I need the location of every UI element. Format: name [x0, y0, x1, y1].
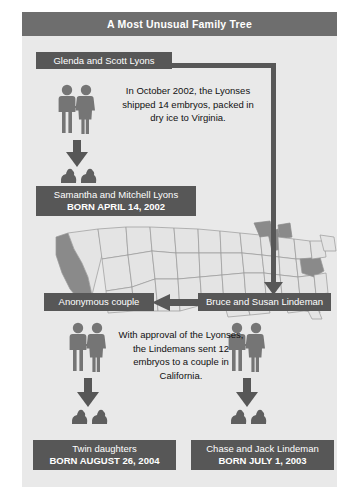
node-name: Bruce and Susan Lindeman: [206, 296, 323, 308]
couple-silhouette-anonymous-icon: [65, 322, 111, 372]
annotation-middle: With approval of the Lyonses, the Lindem…: [118, 328, 244, 382]
node-chase-jack-lindeman[interactable]: Chase and Jack Lindeman BORN JULY 1, 200…: [191, 440, 334, 470]
node-name: Chase and Jack Lindeman: [206, 443, 319, 455]
title-text: A Most Unusual Family Tree: [107, 18, 252, 30]
node-name: Glenda and Scott Lyons: [53, 55, 154, 67]
infographic-root: A Most Unusual Family Tree: [0, 0, 359, 501]
annotation-top: In October 2002, the Lyonses shipped 14 …: [118, 84, 258, 125]
node-twin-daughters[interactable]: Twin daughters BORN AUGUST 26, 2004: [33, 440, 176, 470]
arrow-lindeman-to-anonymous-icon: [152, 294, 200, 311]
arrow-down-lindeman-to-sons-icon: [236, 378, 258, 408]
twin-babies-icon: [56, 168, 98, 184]
node-name: Twin daughters: [72, 443, 136, 455]
arrow-down-lyons-to-children-icon: [66, 140, 88, 168]
node-anonymous-couple[interactable]: Anonymous couple: [44, 293, 154, 311]
node-born-date: BORN JULY 1, 2003: [218, 455, 306, 467]
couple-silhouette-icon: [54, 84, 100, 134]
node-samantha-mitchell-lyons[interactable]: Samantha and Mitchell Lyons BORN APRIL 1…: [36, 186, 196, 216]
node-name: Samantha and Mitchell Lyons: [54, 189, 178, 201]
node-born-date: BORN AUGUST 26, 2004: [50, 455, 160, 467]
infographic-title: A Most Unusual Family Tree: [22, 12, 337, 36]
twin-daughters-icon: [67, 409, 109, 425]
node-glenda-scott-lyons[interactable]: Glenda and Scott Lyons: [36, 52, 172, 69]
chase-jack-babies-icon: [226, 409, 268, 425]
node-bruce-susan-lindeman[interactable]: Bruce and Susan Lindeman: [198, 293, 331, 311]
node-born-date: BORN APRIL 14, 2002: [67, 201, 165, 213]
arrow-down-anonymous-to-twins-icon: [77, 378, 99, 408]
node-name: Anonymous couple: [59, 296, 140, 308]
